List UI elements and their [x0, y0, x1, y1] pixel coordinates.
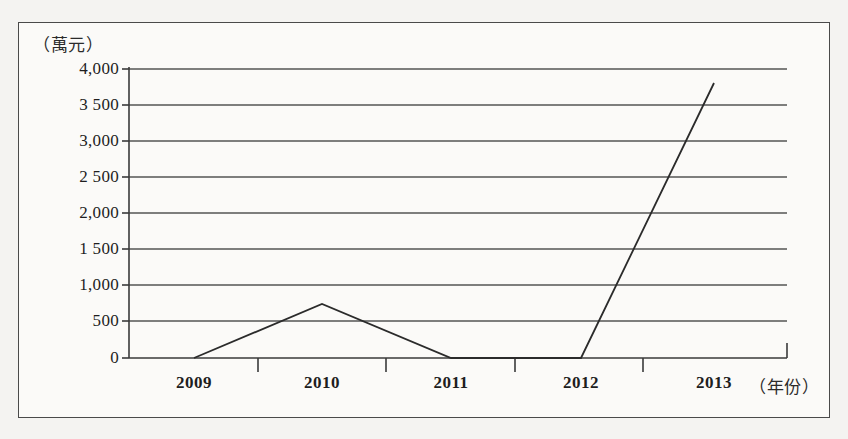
x-tick-label-2011: 2011	[433, 373, 468, 393]
x-tick-label-2009: 2009	[176, 373, 212, 393]
x-axis-name-label: （年份）	[749, 373, 819, 398]
gridlines	[129, 69, 787, 321]
y-axis	[122, 67, 129, 358]
plot-area	[19, 23, 831, 419]
x-tick-label-2010: 2010	[304, 373, 340, 393]
x-tick-label-2013: 2013	[696, 373, 732, 393]
data-series-line	[194, 83, 714, 358]
chart-figure: （萬元） 4,000 3 500 3,000 2 500 2,000 1 500…	[18, 22, 830, 418]
x-tick-label-2012: 2012	[563, 373, 599, 393]
